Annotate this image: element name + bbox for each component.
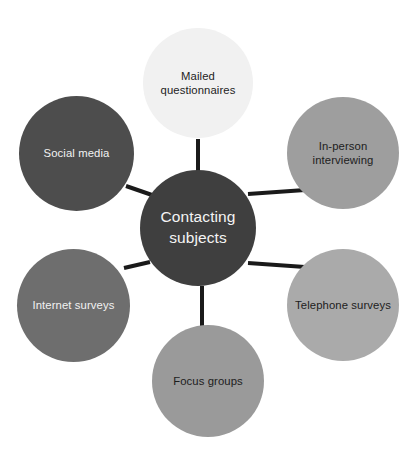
node-mailed-questionnaires[interactable]: Mailed questionnaires — [143, 28, 253, 138]
node-internet-surveys[interactable]: Internet surveys — [17, 249, 130, 362]
node-label-telephone-surveys: Telephone surveys — [289, 298, 397, 312]
node-label-internet-surveys: Internet surveys — [27, 298, 121, 312]
connector-social-media — [126, 186, 152, 195]
node-label-in-person-interviewing: In-person interviewing — [287, 139, 399, 168]
node-in-person-interviewing[interactable]: In-person interviewing — [287, 97, 399, 209]
connector-internet-surveys — [124, 262, 150, 268]
diagram-canvas: Mailed questionnaires In-person intervie… — [0, 0, 408, 455]
node-label-contacting-subjects: Contacting subjects — [140, 207, 256, 249]
node-focus-groups[interactable]: Focus groups — [152, 325, 264, 437]
node-telephone-surveys[interactable]: Telephone surveys — [287, 249, 399, 361]
connector-telephone-surveys — [248, 263, 305, 267]
connector-in-person-interviewing — [248, 190, 305, 194]
node-label-mailed-questionnaires: Mailed questionnaires — [143, 69, 253, 98]
node-social-media[interactable]: Social media — [19, 96, 134, 211]
node-label-social-media: Social media — [38, 146, 116, 160]
node-label-focus-groups: Focus groups — [167, 374, 249, 388]
node-contacting-subjects[interactable]: Contacting subjects — [140, 170, 256, 286]
